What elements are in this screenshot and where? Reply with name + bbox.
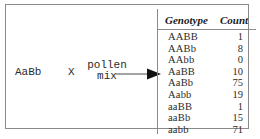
cell-genotype: AaBb bbox=[168, 77, 193, 88]
cell-genotype: AaBB bbox=[168, 66, 195, 77]
cell-count: 15 bbox=[211, 112, 243, 123]
results-table: Genotype Count AABB 1 AABb 8 AAbb 0 AaBB bbox=[157, 9, 255, 134]
cross-symbol-label: X bbox=[68, 66, 75, 78]
genetics-cross-figure: AaBb X pollen mix Genotype Count AABB 1 bbox=[0, 0, 260, 139]
cell-count: 19 bbox=[211, 89, 243, 100]
cell-genotype: AAbb bbox=[168, 54, 194, 65]
table-row: AAbb 0 bbox=[158, 54, 256, 66]
cell-count: 75 bbox=[211, 77, 243, 88]
table-row: Aabb 19 bbox=[158, 89, 256, 101]
cell-genotype: aabb bbox=[168, 124, 189, 135]
table-row: aabb 71 bbox=[158, 124, 256, 136]
cell-count: 1 bbox=[211, 31, 243, 42]
table-row: AABb 8 bbox=[158, 43, 256, 55]
table-row: AABB 1 bbox=[158, 31, 256, 43]
table-header-row: Genotype Count bbox=[158, 14, 256, 30]
cell-count: 8 bbox=[211, 43, 243, 54]
table-row: aaBb 15 bbox=[158, 112, 256, 124]
table-row: aaBB 1 bbox=[158, 101, 256, 113]
table-row: AaBb 75 bbox=[158, 77, 256, 89]
cell-count: 1 bbox=[211, 101, 243, 112]
table-body: AABB 1 AABb 8 AAbb 0 AaBB 10 AaBb 75 bbox=[158, 31, 256, 135]
cell-genotype: aaBb bbox=[168, 112, 190, 123]
figure-frame: AaBb X pollen mix Genotype Count AABB 1 bbox=[5, 4, 249, 129]
cell-genotype: AABb bbox=[168, 43, 196, 54]
parent-genotype-label: AaBb bbox=[15, 66, 41, 78]
table-row: AaBB 10 bbox=[158, 66, 256, 78]
cell-count: 0 bbox=[211, 54, 243, 65]
right-arrow-icon bbox=[116, 67, 162, 81]
cell-genotype: aaBB bbox=[168, 101, 192, 112]
cell-genotype: AABB bbox=[168, 31, 198, 42]
cell-genotype: Aabb bbox=[168, 89, 192, 100]
column-header-genotype: Genotype bbox=[165, 14, 208, 26]
cell-count: 10 bbox=[211, 66, 243, 77]
cell-count: 71 bbox=[211, 124, 243, 135]
column-header-count: Count bbox=[220, 14, 248, 26]
